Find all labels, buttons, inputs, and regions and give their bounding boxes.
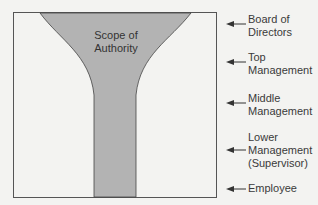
level-board: Board of Directors	[248, 13, 292, 39]
level-line: Board of	[248, 13, 292, 26]
level-line: Directors	[248, 26, 292, 39]
level-top-management: Top Management	[248, 51, 312, 77]
level-line: Lower	[248, 131, 312, 144]
level-line: Top	[248, 51, 312, 64]
level-line: Employee	[248, 182, 297, 195]
arrow-left-icon	[226, 146, 246, 154]
scope-label: Scope of Authority	[76, 29, 156, 55]
level-employee: Employee	[248, 182, 297, 195]
level-lower-management: Lower Management (Supervisor)	[248, 131, 312, 170]
scope-label-line: Scope of	[76, 29, 156, 42]
level-line: Middle	[248, 92, 312, 105]
level-line: Management	[248, 105, 312, 118]
arrow-left-icon	[226, 20, 246, 28]
level-middle-management: Middle Management	[248, 92, 312, 118]
level-line: Management	[248, 64, 312, 77]
scope-label-line: Authority	[76, 42, 156, 55]
level-line: Management	[248, 144, 312, 157]
arrow-left-icon	[226, 185, 246, 193]
arrow-left-icon	[226, 58, 246, 66]
arrow-left-icon	[226, 99, 246, 107]
level-line: (Supervisor)	[248, 157, 312, 170]
